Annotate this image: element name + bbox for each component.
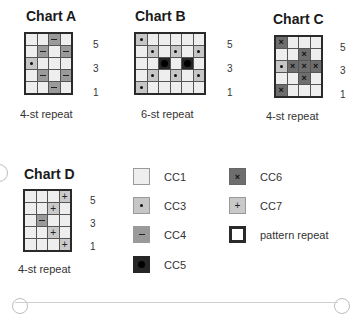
legend-label: CC6 <box>260 171 282 183</box>
stitch-cell-cc5 <box>159 58 170 69</box>
stitch-cell-cc1 <box>182 46 193 57</box>
stitch-cell-cc1 <box>171 34 182 45</box>
stitch-cell-cc1 <box>49 58 60 69</box>
stitch-cell-cc1 <box>311 73 322 84</box>
stitch-cell-cc6: × <box>299 73 310 84</box>
stitch-cell-cc1 <box>159 46 170 57</box>
stitch-cell-cc4 <box>49 34 60 45</box>
swatch-blank-icon <box>133 168 150 185</box>
swatch-outline-icon <box>229 226 246 243</box>
stitch-cell-cc7: + <box>60 239 71 250</box>
stitch-cell-cc1 <box>37 239 48 250</box>
stitch-cell-cc1 <box>49 70 60 81</box>
repeat-label: 4-st repeat <box>18 263 71 275</box>
stitch-cell-cc1 <box>61 82 72 93</box>
stitch-cell-cc1 <box>136 70 147 81</box>
stitch-cell-cc3 <box>148 46 159 57</box>
stitch-cell-cc1 <box>38 82 49 93</box>
stitch-cell-cc1 <box>288 73 299 84</box>
stitch-cell-cc1 <box>25 203 36 214</box>
stitch-cell-cc1 <box>276 49 287 60</box>
row-number: 3 <box>90 218 96 229</box>
decorative-circle-bottom-left <box>12 298 28 314</box>
row-number: 5 <box>227 39 233 50</box>
stitch-cell-cc1 <box>311 37 322 48</box>
stitch-cell-cc4 <box>38 70 49 81</box>
stitch-cell-cc4 <box>38 46 49 57</box>
stitch-cell-cc6: × <box>276 85 287 96</box>
repeat-label: 4-st repeat <box>20 108 73 120</box>
stitch-cell-cc1 <box>25 227 36 238</box>
stitch-cell-cc1 <box>159 82 170 93</box>
swatch-x-icon: × <box>229 168 246 185</box>
stitch-cell-cc1 <box>26 34 37 45</box>
legend-item-cc3: CC3 <box>133 197 186 214</box>
stitch-cell-cc1 <box>288 49 299 60</box>
stitch-cell-cc3 <box>136 82 147 93</box>
decorative-circle-left <box>0 164 8 182</box>
stitch-cell-cc3 <box>171 46 182 57</box>
stitch-cell-cc1 <box>148 82 159 93</box>
swatch-dash-icon <box>133 226 150 243</box>
legend-label: CC1 <box>164 171 186 183</box>
chart-grid <box>134 32 206 95</box>
stitch-cell-cc3 <box>171 70 182 81</box>
row-number: 1 <box>90 241 96 252</box>
stitch-cell-cc1 <box>25 215 36 226</box>
divider <box>15 302 338 303</box>
stitch-cell-cc1 <box>194 34 205 45</box>
stitch-cell-cc3 <box>148 70 159 81</box>
row-number: 5 <box>340 42 346 53</box>
repeat-label: 6-st repeat <box>141 108 194 120</box>
stitch-cell-cc3 <box>194 70 205 81</box>
stitch-cell-cc1 <box>61 58 72 69</box>
legend-item-cc6: × CC6 <box>229 168 282 185</box>
stitch-cell-cc6: × <box>299 49 310 60</box>
stitch-cell-cc1 <box>48 239 59 250</box>
stitch-cell-cc1 <box>60 215 71 226</box>
stitch-cell-cc4 <box>49 82 60 93</box>
row-number: 5 <box>93 39 99 50</box>
stitch-cell-cc1 <box>311 85 322 96</box>
stitch-cell-cc1 <box>26 82 37 93</box>
stitch-cell-cc1 <box>171 82 182 93</box>
stitch-cell-cc7: + <box>48 203 59 214</box>
swatch-big-dot-icon <box>133 256 150 273</box>
stitch-cell-cc4 <box>37 215 48 226</box>
stitch-cell-cc1 <box>26 46 37 57</box>
stitch-cell-cc1 <box>26 70 37 81</box>
stitch-cell-cc6: × <box>299 61 310 72</box>
legend-label: CC5 <box>164 259 186 271</box>
swatch-plus-icon: + <box>229 197 246 214</box>
chart-title: Chart B <box>135 8 186 24</box>
legend-item-pattern-repeat: pattern repeat <box>229 226 329 243</box>
stitch-cell-cc1 <box>148 58 159 69</box>
stitch-cell-cc1 <box>182 70 193 81</box>
stitch-cell-cc1 <box>276 73 287 84</box>
chart-title: Chart A <box>26 8 76 24</box>
row-number: 3 <box>340 65 346 76</box>
stitch-cell-cc3 <box>194 46 205 57</box>
stitch-cell-cc1 <box>194 82 205 93</box>
stitch-cell-cc1 <box>288 85 299 96</box>
chart-title: Chart C <box>273 11 324 27</box>
stitch-cell-cc1 <box>299 85 310 96</box>
legend-item-cc5: CC5 <box>133 256 186 273</box>
decorative-circle-bottom-right <box>334 298 350 314</box>
stitch-cell-cc1 <box>171 58 182 69</box>
row-number: 3 <box>227 63 233 74</box>
stitch-cell-cc3 <box>26 58 37 69</box>
stitch-cell-cc1 <box>182 82 193 93</box>
chart-grid: ++++ <box>23 189 72 252</box>
stitch-cell-cc1 <box>148 34 159 45</box>
stitch-cell-cc1 <box>159 34 170 45</box>
stitch-cell-cc1 <box>49 46 60 57</box>
legend-item-cc7: + CC7 <box>229 197 282 214</box>
chart-grid: ××××××× <box>274 35 323 98</box>
repeat-label: 4-st repeat <box>266 110 319 122</box>
legend-item-cc1: CC1 <box>133 168 186 185</box>
stitch-cell-cc1 <box>136 46 147 57</box>
stitch-cell-cc1 <box>60 227 71 238</box>
stitch-cell-cc3 <box>136 34 147 45</box>
stitch-cell-cc1 <box>37 203 48 214</box>
